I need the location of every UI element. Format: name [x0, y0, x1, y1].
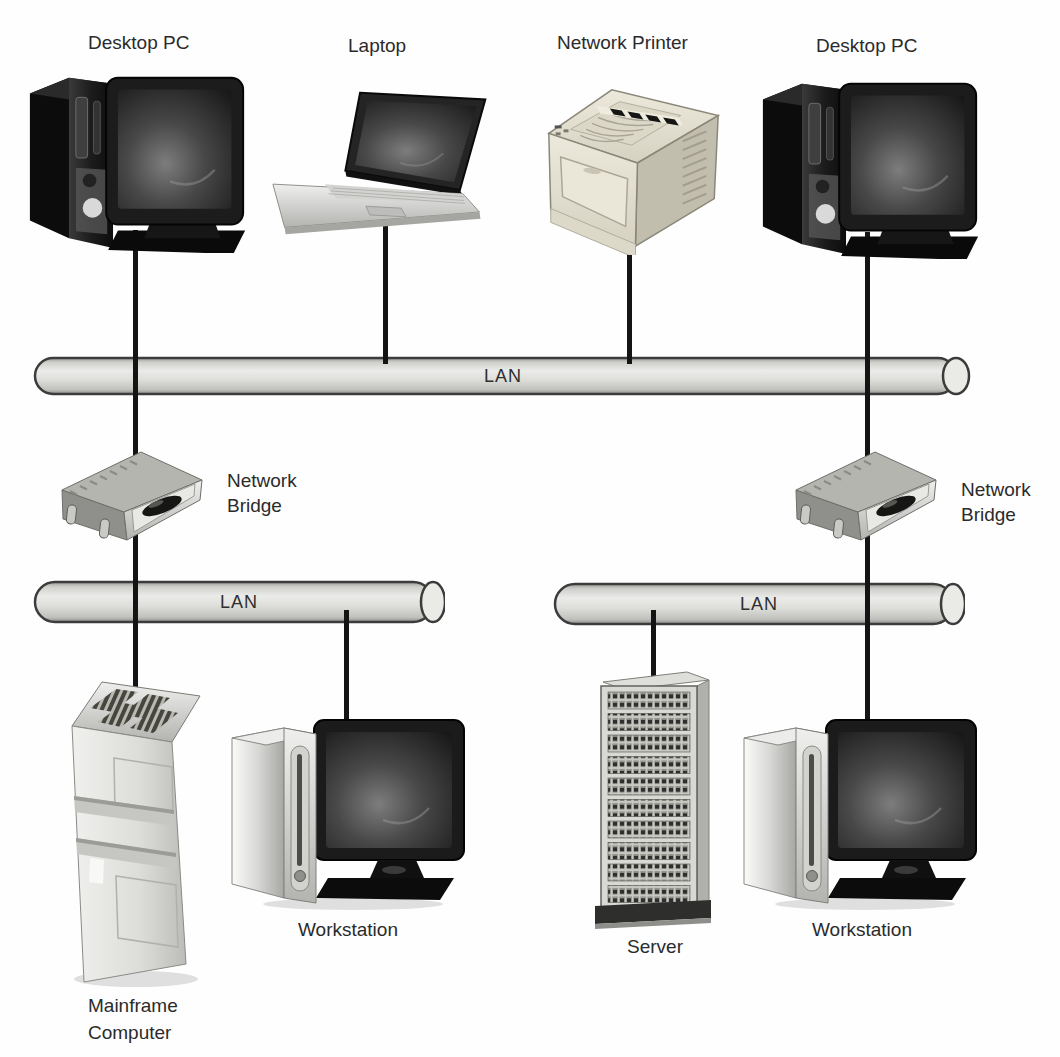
lan-left-label: LAN: [220, 592, 258, 613]
mainframe-icon: [62, 666, 210, 988]
workstation-icon: [740, 698, 980, 913]
lan-right-label: LAN: [740, 594, 778, 615]
network-printer-icon: [535, 72, 730, 255]
network-diagram: LAN LAN LAN: [0, 0, 1060, 1057]
label-mainframe: Mainframe Computer: [88, 992, 178, 1046]
device-network-printer: [535, 72, 730, 255]
label-network-bridge-left: Network Bridge: [227, 468, 297, 518]
label-desktop-pc-left: Desktop PC: [88, 30, 189, 56]
device-laptop: [268, 86, 503, 238]
device-mainframe: [62, 666, 210, 988]
server-icon: [591, 666, 719, 931]
label-server: Server: [591, 934, 719, 960]
label-network-printer: Network Printer: [557, 30, 688, 56]
network-cable: [383, 226, 388, 364]
lan-bus-left: LAN: [33, 580, 445, 624]
device-network-bridge-left: [56, 446, 208, 544]
network-cable: [627, 240, 632, 364]
workstation-icon: [228, 698, 468, 913]
label-laptop: Laptop: [348, 33, 406, 59]
device-desktop-pc-right: [758, 66, 983, 261]
desktop-pc-icon: [25, 60, 250, 255]
label-network-bridge-right: Network Bridge: [961, 477, 1031, 527]
device-server: [591, 666, 719, 931]
device-network-bridge-right: [790, 446, 942, 544]
label-workstation-right: Workstation: [742, 917, 982, 943]
device-desktop-pc-left: [25, 60, 250, 255]
device-workstation-right: [740, 698, 980, 913]
device-workstation-left: [228, 698, 468, 913]
laptop-icon: [268, 86, 503, 238]
lan-top-label: LAN: [484, 366, 522, 387]
network-bridge-icon: [56, 446, 208, 544]
lan-bus-top: LAN: [33, 356, 973, 396]
desktop-pc-icon: [758, 66, 983, 261]
label-desktop-pc-right: Desktop PC: [816, 33, 917, 59]
label-workstation-left: Workstation: [228, 917, 468, 943]
network-bridge-icon: [790, 446, 942, 544]
lan-bus-right: LAN: [553, 582, 965, 626]
